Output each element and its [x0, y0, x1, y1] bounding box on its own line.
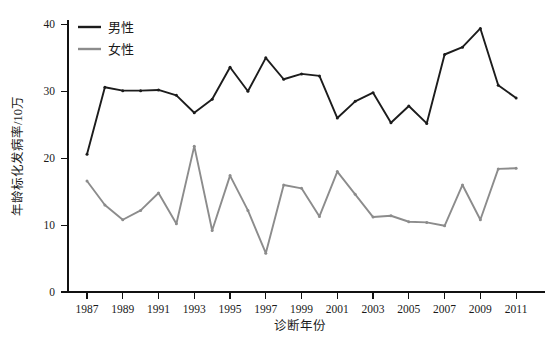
data-point [282, 183, 285, 186]
x-tick-label: 1997 [254, 303, 277, 315]
x-axis-title: 诊断年份 [274, 318, 326, 333]
data-point [515, 96, 518, 99]
data-point [193, 145, 196, 148]
data-point [354, 100, 357, 103]
x-tick-label: 1993 [183, 303, 206, 315]
y-axis-title: 年龄标化发病率/10万 [10, 96, 25, 216]
data-point [461, 183, 464, 186]
data-series-group [86, 27, 518, 255]
data-point [300, 72, 303, 75]
data-point [157, 191, 160, 194]
data-point [354, 193, 357, 196]
data-point [336, 170, 339, 173]
data-point [246, 209, 249, 212]
data-point [103, 86, 106, 89]
y-tick-label: 20 [44, 152, 56, 164]
data-point [515, 167, 518, 170]
y-tick-label: 30 [44, 85, 56, 97]
data-point [407, 105, 410, 108]
legend-label-female: 女性 [108, 42, 134, 57]
x-tick-label: 1999 [290, 303, 313, 315]
chart-legend: 男性女性 [78, 20, 134, 57]
x-axis: 1987198919911993199519971999200120032005… [68, 292, 545, 333]
y-tick-label: 0 [49, 286, 55, 298]
data-point [175, 94, 178, 97]
data-point [443, 53, 446, 56]
data-point [229, 174, 232, 177]
data-point [318, 74, 321, 77]
data-point [103, 204, 106, 207]
data-point [389, 121, 392, 124]
data-point [121, 89, 124, 92]
data-point [407, 220, 410, 223]
x-tick-label: 1991 [147, 303, 170, 315]
y-axis: 010203040 年龄标化发病率/10万 [10, 18, 68, 298]
data-point [211, 229, 214, 232]
data-point [318, 215, 321, 218]
x-tick-label: 2007 [433, 303, 456, 315]
x-tick-label: 2005 [397, 303, 420, 315]
x-tick-label: 1995 [219, 303, 242, 315]
data-point [121, 218, 124, 221]
y-tick-label: 40 [44, 18, 56, 30]
y-tick-label: 10 [44, 219, 56, 231]
x-tick-label: 2001 [326, 303, 349, 315]
data-point [86, 179, 89, 182]
data-point [264, 252, 267, 255]
x-tick-label: 2011 [505, 303, 528, 315]
data-point [425, 221, 428, 224]
legend-label-male: 男性 [108, 20, 134, 35]
series-line-male [87, 28, 516, 154]
y-tick-group: 010203040 [44, 18, 69, 298]
line-chart-canvas: 010203040 年龄标化发病率/10万 198719891991199319… [0, 0, 557, 346]
data-point [264, 56, 267, 59]
data-point [282, 78, 285, 81]
data-point [425, 122, 428, 125]
x-tick-label: 2003 [362, 303, 385, 315]
data-point [139, 209, 142, 212]
chart-figure: 010203040 年龄标化发病率/10万 198719891991199319… [0, 0, 557, 346]
data-point [372, 216, 375, 219]
data-point [336, 117, 339, 120]
data-point [229, 66, 232, 69]
data-point [497, 84, 500, 87]
data-point [157, 88, 160, 91]
data-point [139, 89, 142, 92]
data-point [193, 111, 196, 114]
data-point [497, 167, 500, 170]
data-point [175, 222, 178, 225]
data-point [211, 98, 214, 101]
x-tick-group: 1987198919911993199519971999200120032005… [76, 292, 528, 315]
x-tick-label: 1987 [76, 303, 99, 315]
data-point [300, 187, 303, 190]
data-point [86, 153, 89, 156]
x-tick-label: 2009 [469, 303, 492, 315]
data-point [479, 27, 482, 30]
x-tick-label: 1989 [111, 303, 134, 315]
series-line-female [87, 146, 516, 253]
data-point [246, 90, 249, 93]
data-point [443, 224, 446, 227]
data-point [479, 218, 482, 221]
data-point [372, 91, 375, 94]
data-point [389, 214, 392, 217]
data-point [461, 46, 464, 49]
